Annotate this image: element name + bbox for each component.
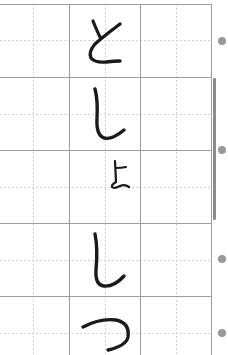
scrollbar-thumb[interactable] bbox=[213, 78, 216, 220]
row-marker-1[interactable] bbox=[218, 146, 226, 154]
row-marker-2[interactable] bbox=[218, 255, 226, 263]
row-marker-0[interactable] bbox=[218, 37, 226, 45]
row-marker-3[interactable] bbox=[218, 329, 226, 337]
practice-grid bbox=[0, 0, 228, 355]
practice-sheet: と しょ し つ bbox=[0, 0, 228, 355]
